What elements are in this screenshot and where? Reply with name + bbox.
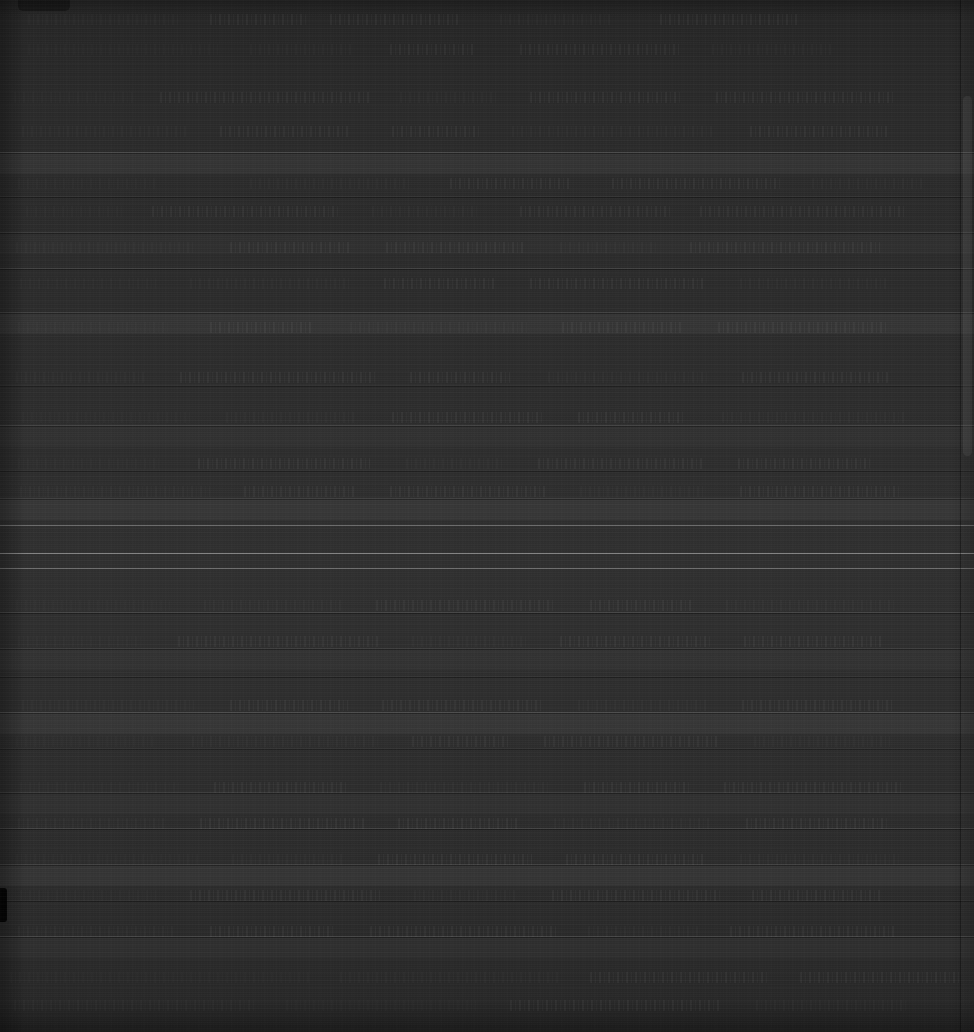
row-divider-shadow xyxy=(0,269,974,270)
row-divider-shadow xyxy=(0,793,974,794)
scrollbar-thumb[interactable] xyxy=(963,96,972,456)
row-divider-shadow xyxy=(0,313,974,314)
row-divider-shadow xyxy=(0,386,974,387)
section-divider xyxy=(0,553,974,554)
row-divider-shadow xyxy=(0,677,974,678)
row-divider-shadow xyxy=(0,471,974,472)
row-divider-shadow xyxy=(0,613,974,614)
section-divider xyxy=(0,568,974,569)
section-divider xyxy=(0,525,974,526)
row-divider-shadow xyxy=(0,713,974,714)
row-divider-shadow xyxy=(0,499,974,500)
row-divider-shadow xyxy=(0,426,974,427)
row-divider-shadow xyxy=(0,865,974,866)
row-divider-shadow xyxy=(0,233,974,234)
row-divider-shadow xyxy=(0,153,974,154)
divider-layer xyxy=(0,0,974,1032)
row-divider-shadow xyxy=(0,749,974,750)
left-edge-notch xyxy=(0,888,7,922)
row-divider-shadow xyxy=(0,197,974,198)
browser-tab-nub[interactable] xyxy=(18,0,70,11)
scrollbar-track[interactable] xyxy=(961,0,974,1032)
screenshot-root xyxy=(0,0,974,1032)
row-divider-shadow xyxy=(0,649,974,650)
row-divider-shadow xyxy=(0,937,974,938)
row-divider-shadow xyxy=(0,901,974,902)
row-divider-shadow xyxy=(0,829,974,830)
